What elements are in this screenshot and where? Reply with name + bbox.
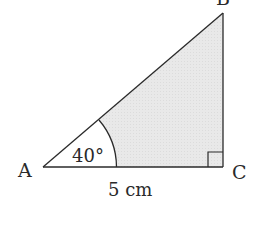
side-label-AC: 5 cm	[108, 179, 152, 200]
triangle-diagram: A C B 40° 5 cm	[0, 0, 262, 225]
vertex-label-B: B	[216, 0, 230, 9]
vertex-label-A: A	[17, 159, 32, 181]
vertex-label-C: C	[232, 161, 247, 183]
shaded-region	[99, 13, 223, 167]
angle-label-A: 40°	[72, 145, 104, 166]
